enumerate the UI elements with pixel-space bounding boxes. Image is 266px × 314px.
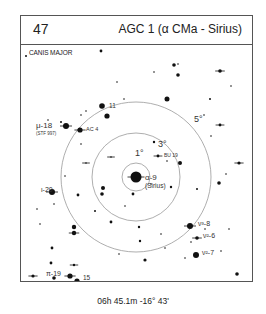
star [139, 240, 141, 242]
star-label: 15 [83, 274, 91, 281]
star [104, 113, 109, 118]
star [53, 203, 55, 205]
star [124, 205, 126, 207]
star [99, 103, 105, 109]
star [94, 210, 96, 212]
star [138, 226, 140, 228]
star [51, 247, 54, 250]
star [85, 162, 87, 164]
star [31, 274, 34, 277]
star [209, 98, 211, 100]
star-label: (Sirius) [145, 182, 166, 190]
star [220, 250, 222, 252]
star [170, 186, 172, 188]
star-label: π-19 [46, 270, 61, 277]
star [74, 278, 79, 281]
star-label: AC 4 [86, 126, 98, 132]
star [77, 194, 80, 197]
star-label: ν²-6 [203, 232, 215, 239]
star [210, 135, 212, 137]
star [110, 156, 112, 158]
star [153, 141, 155, 143]
star [72, 231, 76, 235]
star [218, 69, 222, 73]
star [237, 161, 240, 164]
star [110, 221, 113, 224]
star [172, 63, 176, 67]
plate-title: AGC 1 (α CMa - Sirius) [118, 22, 242, 36]
star-label: ν²-7 [202, 249, 214, 256]
star-label: ι-20 [41, 186, 53, 193]
star-field: 1°3°5°α-9(Sirius)11AC 4BU 19μ-18(STF 997… [21, 44, 252, 281]
star-label: ν³-8 [198, 220, 210, 227]
star [72, 225, 76, 229]
star-label: (STF 997) [36, 131, 57, 136]
star [193, 252, 199, 258]
star [80, 114, 82, 116]
plate-number: 47 [33, 21, 49, 37]
star [64, 175, 66, 177]
star [196, 188, 198, 190]
star [235, 272, 239, 276]
star [230, 85, 232, 87]
star [50, 262, 53, 265]
star [101, 186, 105, 190]
star [36, 208, 38, 210]
star [157, 155, 160, 158]
star [176, 73, 180, 77]
ring-label: 1° [135, 148, 144, 158]
star [85, 110, 87, 112]
star [131, 172, 142, 183]
ring-label: 5° [194, 114, 203, 124]
star [67, 273, 72, 278]
star [132, 193, 135, 196]
star [195, 236, 199, 240]
star [160, 233, 162, 235]
star [177, 63, 179, 65]
star [219, 124, 222, 127]
star [166, 160, 168, 162]
star [25, 55, 27, 57]
star [73, 264, 75, 266]
star-label: BU 19 [164, 152, 178, 158]
star [153, 71, 155, 73]
constellation-label: CANIS MAJOR [29, 49, 72, 56]
star-label: α-9 [145, 173, 157, 182]
star [204, 228, 206, 230]
star [123, 98, 125, 100]
star [100, 192, 104, 196]
star [178, 161, 182, 165]
star [60, 121, 62, 123]
star [228, 228, 230, 230]
star [63, 123, 69, 129]
ring-label: 3° [158, 139, 167, 149]
star [225, 173, 227, 175]
star [187, 223, 193, 229]
star [203, 114, 205, 116]
star [164, 247, 166, 249]
star-label: 11 [109, 102, 116, 109]
chart-header: 47 AGC 1 (α CMa - Sirius) [21, 16, 252, 45]
center-coordinates: 06h 45.1m -16° 43' [0, 296, 266, 306]
star [39, 223, 41, 225]
star [100, 50, 103, 53]
star [190, 241, 192, 243]
star [80, 143, 82, 145]
star [118, 253, 120, 255]
star [165, 97, 170, 102]
star [184, 257, 186, 259]
star [77, 127, 82, 132]
star-map: 1°3°5°α-9(Sirius)11AC 4BU 19μ-18(STF 997… [21, 44, 252, 281]
star [217, 181, 221, 185]
star [143, 258, 146, 261]
star [116, 81, 118, 83]
star-label: μ-18 [36, 121, 53, 130]
chart-frame: 47 AGC 1 (α CMa - Sirius) 1°3°5°α-9(Siri… [20, 15, 253, 282]
